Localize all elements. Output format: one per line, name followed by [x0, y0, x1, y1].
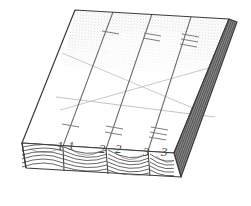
top-face	[20, 10, 235, 153]
figure-canvas: 1 1 2 2 3 3	[0, 0, 251, 206]
pencil-mark-3-left: 3	[142, 144, 150, 159]
pencil-mark-2-right: 2	[115, 141, 122, 156]
pencil-mark-2-left: 2	[99, 141, 106, 156]
pencil-mark-3-right: 3	[160, 144, 168, 159]
pencil-mark-1-left: 1	[57, 138, 64, 153]
board-illustration: 1 1 2 2 3 3	[0, 0, 251, 206]
top-face-shading	[20, 10, 235, 82]
pencil-mark-1-right: 1	[68, 138, 75, 153]
